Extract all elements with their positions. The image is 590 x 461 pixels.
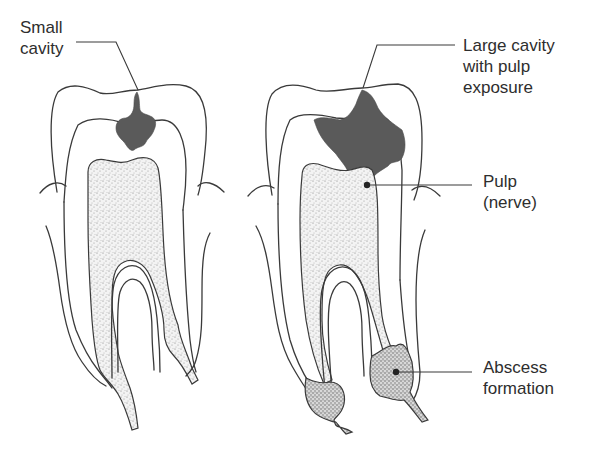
label-pulp: Pulp (nerve) xyxy=(483,171,537,213)
pulp-chamber xyxy=(300,164,392,385)
label-pulp-line2: (nerve) xyxy=(483,192,537,213)
ligament-right xyxy=(186,233,210,376)
label-abscess-line1: Abscess xyxy=(483,357,554,378)
label-large-cavity-line1: Large cavity xyxy=(463,35,555,56)
root-outline-right xyxy=(400,280,408,352)
pulp-marker-dot xyxy=(364,182,370,188)
tooth-small-cavity xyxy=(40,85,224,430)
label-abscess-line2: formation xyxy=(483,378,554,399)
abscess-left-root xyxy=(305,378,352,434)
label-small-cavity: Small cavity xyxy=(20,17,63,59)
label-large-cavity-line3: exposure xyxy=(463,77,555,98)
root-furcation-inner xyxy=(328,282,364,396)
label-small-cavity-line1: Small xyxy=(20,17,63,38)
abscess-marker-dot xyxy=(393,369,399,375)
label-abscess: Abscess formation xyxy=(483,357,554,399)
label-small-cavity-line2: cavity xyxy=(20,38,63,59)
leader-large-cavity xyxy=(363,45,455,88)
label-large-cavity-line2: with pulp xyxy=(463,56,555,77)
gum-line-left xyxy=(40,183,66,193)
gum-line-right xyxy=(198,183,224,192)
small-cavity-decay xyxy=(116,92,156,150)
label-large-cavity: Large cavity with pulp exposure xyxy=(463,35,555,98)
tooth-large-cavity xyxy=(248,84,440,434)
root-furcation-inner xyxy=(118,279,155,372)
ligament-right xyxy=(412,230,425,402)
leader-small-cavity xyxy=(76,42,138,90)
label-pulp-line1: Pulp xyxy=(483,171,537,192)
pulp-chamber xyxy=(88,158,198,430)
